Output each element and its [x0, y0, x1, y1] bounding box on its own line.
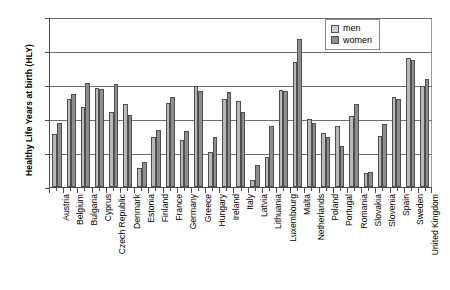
- x-tick-end: [431, 188, 432, 193]
- bar-group: [418, 18, 432, 187]
- x-axis-label-sweden: Sweden: [414, 194, 426, 286]
- x-axis-label-austria: Austria: [60, 194, 72, 286]
- x-axis-label-czech-republic: Czech Republic: [116, 194, 128, 286]
- bar-group: [276, 18, 290, 187]
- bar-women: [425, 79, 430, 187]
- bar-group: [404, 18, 418, 187]
- bar-group: [206, 18, 220, 187]
- y-axis-title: Healthy Life Years at birth (HLY): [24, 20, 34, 200]
- x-axis-label-france: France: [173, 194, 185, 286]
- x-axis-category-labels: AustriaBelgiumBulgariaCyprusCzech Republ…: [49, 194, 432, 286]
- x-axis-label-romania: Romania: [358, 194, 370, 286]
- legend-swatch-women-icon: [331, 36, 339, 44]
- x-axis-label-lithuania: Lithuania: [272, 194, 284, 286]
- bar-women: [184, 131, 189, 187]
- bar-group: [149, 18, 163, 187]
- bar-group: [262, 18, 276, 187]
- bar-women: [411, 60, 416, 187]
- bar-women: [283, 91, 288, 187]
- x-axis-label-slovenia: Slovenia: [386, 194, 398, 286]
- bar-group: [135, 18, 149, 187]
- y-tick-mark-65: [45, 86, 49, 87]
- x-axis-label-luxembourg: Luxembourg: [287, 194, 299, 286]
- x-axis-label-netherlands: Netherlands: [315, 194, 327, 286]
- bar-women: [142, 162, 147, 187]
- bar-group: [389, 18, 403, 187]
- x-axis-label-germany: Germany: [187, 194, 199, 286]
- bar-women: [71, 94, 76, 187]
- y-tick-mark-55: [45, 154, 49, 155]
- y-tick-mark-60: [45, 120, 49, 121]
- x-axis-label-slovakia: Slovakia: [372, 194, 384, 286]
- bar-women: [128, 115, 133, 187]
- bar-women: [382, 124, 387, 187]
- bar-group: [290, 18, 304, 187]
- x-axis-label-poland: Poland: [329, 194, 341, 286]
- legend-swatch-men-icon: [331, 25, 339, 33]
- bar-group: [92, 18, 106, 187]
- bar-group: [234, 18, 248, 187]
- chart-container: Healthy Life Years at birth (HLY) 505560…: [0, 0, 450, 290]
- bar-women: [312, 123, 317, 187]
- bar-women: [85, 83, 90, 187]
- bar-women: [241, 112, 246, 187]
- x-axis-label-denmark: Denmark: [131, 194, 143, 286]
- bar-group: [121, 18, 135, 187]
- legend-item-men: men: [331, 23, 372, 35]
- bar-group: [163, 18, 177, 187]
- bar-women: [99, 89, 104, 187]
- bar-women: [354, 104, 359, 187]
- x-axis-label-spain: Spain: [400, 194, 412, 286]
- bar-women: [114, 84, 119, 187]
- bar-group: [220, 18, 234, 187]
- x-axis-label-estonia: Estonia: [145, 194, 157, 286]
- x-axis-label-malta: Malta: [301, 194, 313, 286]
- x-axis-label-cyprus: Cyprus: [102, 194, 114, 286]
- bar-women: [198, 91, 203, 187]
- chart-legend: men women: [325, 19, 380, 50]
- bar-women: [326, 137, 331, 187]
- x-axis-label-greece: Greece: [202, 194, 214, 286]
- bar-women: [368, 172, 373, 187]
- bar-women: [227, 92, 232, 187]
- bar-women: [340, 146, 345, 187]
- bar-women: [396, 99, 401, 187]
- bar-group: [78, 18, 92, 187]
- y-tick-mark-70: [45, 52, 49, 53]
- x-axis-label-portugal: Portugal: [343, 194, 355, 286]
- x-axis-label-italy: Italy: [244, 194, 256, 286]
- bar-group: [248, 18, 262, 187]
- bar-group: [50, 18, 64, 187]
- bar-group: [305, 18, 319, 187]
- bar-women: [297, 39, 302, 187]
- bar-women: [170, 97, 175, 187]
- bar-group: [191, 18, 205, 187]
- x-axis-label-belgium: Belgium: [74, 194, 86, 286]
- x-axis-label-finland: Finland: [159, 194, 171, 286]
- bar-group: [107, 18, 121, 187]
- bar-group: [64, 18, 78, 187]
- legend-label-women: women: [343, 35, 372, 47]
- bar-women: [213, 137, 218, 187]
- bar-women: [57, 123, 62, 187]
- x-axis-label-latvia: Latvia: [258, 194, 270, 286]
- bar-group: [177, 18, 191, 187]
- x-axis-label-united-kingdom: United Kingdom: [429, 194, 441, 286]
- x-axis-label-hungary: Hungary: [216, 194, 228, 286]
- bar-women: [269, 126, 274, 187]
- x-axis-label-ireland: Ireland: [230, 194, 242, 286]
- x-axis-label-bulgaria: Bulgaria: [88, 194, 100, 286]
- bar-women: [156, 130, 161, 187]
- bar-women: [255, 165, 260, 187]
- legend-label-men: men: [343, 23, 361, 35]
- legend-item-women: women: [331, 35, 372, 47]
- y-tick-mark-75: [45, 18, 49, 19]
